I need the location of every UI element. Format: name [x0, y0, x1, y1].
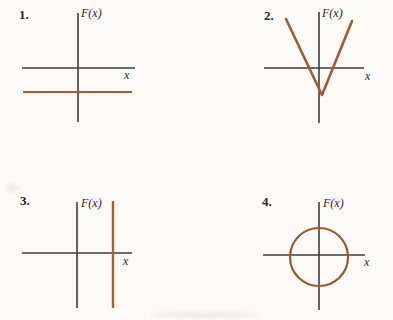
panel-3-y-axis-label: F(x) [81, 197, 102, 209]
panel-2-number: 2. [264, 9, 274, 22]
panel-4-y-axis-label: F(x) [323, 197, 344, 209]
panel-4-number: 4. [262, 195, 272, 208]
panel-3-x-axis-label: x [123, 255, 128, 267]
panel-2-y-axis-label: F(x) [322, 7, 343, 19]
panel-2-graph [264, 12, 364, 123]
panel-1-number: 1. [19, 8, 29, 21]
panel-4-graph [263, 202, 365, 310]
panel-3-number: 3. [20, 194, 30, 207]
scan-smudge [150, 312, 260, 318]
figure-canvas [0, 0, 393, 320]
panel-1-x-axis-label: x [124, 69, 129, 81]
panel-4-x-axis-label: x [364, 256, 369, 268]
panel-3-graph [22, 201, 132, 308]
panel-2-x-axis-label: x [365, 70, 370, 82]
scan-smudge [6, 184, 20, 192]
panel-1-graph [22, 13, 135, 122]
panel-1-y-axis-label: F(x) [81, 7, 102, 19]
four-graphs-figure: 1. F(x) x 2. F(x) x 3. F(x) x 4. F(x) x [0, 0, 393, 320]
